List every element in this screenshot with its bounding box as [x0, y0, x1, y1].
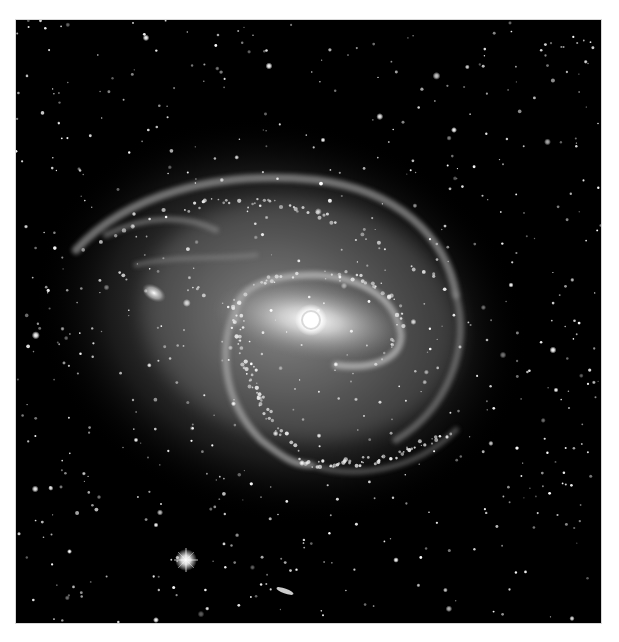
- galaxy-image: [16, 20, 601, 623]
- galaxy-scene: [16, 20, 601, 623]
- edge-on-galaxy: [276, 586, 295, 597]
